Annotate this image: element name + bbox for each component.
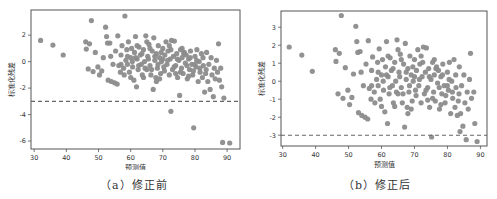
data-point — [139, 51, 144, 56]
data-point — [118, 62, 123, 67]
data-point — [366, 38, 371, 43]
x-tick-label: 80 — [191, 154, 199, 162]
y-tick-label: 0 — [22, 58, 26, 66]
data-point — [165, 58, 170, 63]
data-point — [393, 79, 398, 84]
data-point — [410, 64, 415, 69]
data-point — [381, 79, 386, 84]
data-point — [337, 51, 342, 56]
data-point — [464, 137, 469, 142]
y-tick-label: -6 — [20, 137, 26, 145]
data-point — [453, 72, 458, 77]
data-point — [368, 97, 373, 102]
data-point — [440, 62, 445, 67]
data-point — [412, 57, 417, 62]
data-point — [151, 87, 156, 92]
data-point — [204, 67, 209, 72]
data-point — [126, 39, 131, 44]
data-point — [151, 35, 156, 40]
data-point — [431, 89, 436, 94]
data-point — [384, 72, 389, 77]
data-point — [432, 57, 437, 62]
data-point — [191, 68, 196, 73]
y-tick-label: 2 — [22, 31, 26, 39]
chart-panel-b: 304050607080903210-1-2-3预测值标准化残差 （b）修正后 — [248, 0, 497, 199]
data-point — [379, 104, 384, 109]
data-point — [447, 77, 452, 82]
data-point — [404, 77, 409, 82]
data-point — [458, 111, 463, 116]
y-tick-label: -2 — [20, 84, 26, 92]
data-point — [103, 25, 108, 30]
y-tick-label: 3 — [272, 24, 276, 32]
data-point — [359, 70, 364, 75]
data-point — [175, 56, 180, 61]
data-point — [202, 90, 207, 95]
data-point — [340, 96, 345, 101]
data-point — [160, 56, 165, 61]
data-point — [119, 43, 124, 48]
data-point — [204, 50, 209, 55]
data-point — [84, 47, 89, 52]
data-point — [430, 96, 435, 101]
data-point — [159, 50, 164, 55]
data-point — [475, 139, 480, 144]
data-point — [461, 72, 466, 77]
y-tick-label: -3 — [270, 132, 276, 140]
data-point — [447, 60, 452, 65]
y-tick-label: -1 — [270, 96, 276, 104]
data-point — [456, 91, 461, 96]
data-point — [385, 121, 390, 126]
data-point — [118, 52, 123, 57]
data-point — [466, 107, 471, 112]
data-point — [382, 109, 387, 114]
data-point — [124, 47, 129, 52]
data-point — [188, 55, 193, 60]
data-point — [191, 125, 196, 130]
data-point — [333, 47, 338, 52]
data-point — [147, 46, 152, 51]
data-point — [127, 70, 132, 75]
data-point — [467, 77, 472, 82]
data-point — [372, 100, 377, 105]
data-point — [415, 47, 420, 52]
data-point — [354, 39, 359, 44]
chart-panel-a: 3040506070809020-2-4-6预测值标准化残差 （a）修正前 — [0, 0, 248, 199]
data-point — [374, 77, 379, 82]
data-point — [404, 70, 409, 75]
data-point — [380, 57, 385, 62]
data-point — [353, 24, 358, 29]
data-point — [445, 70, 450, 75]
x-tick-label: 50 — [94, 154, 102, 162]
data-point — [370, 54, 375, 59]
data-point — [437, 85, 442, 90]
x-tick-label: 90 — [476, 151, 484, 159]
data-point — [453, 85, 458, 90]
data-point — [61, 52, 66, 57]
data-point — [86, 66, 91, 71]
data-point — [99, 68, 104, 73]
data-point — [167, 72, 172, 77]
data-point — [299, 53, 304, 58]
caption-a: （a）修正前 — [100, 176, 168, 192]
data-point — [420, 60, 425, 65]
data-point — [432, 72, 437, 77]
data-point — [412, 74, 417, 79]
data-point — [427, 105, 432, 110]
data-point — [457, 64, 462, 69]
x-tick-label: 60 — [377, 151, 385, 159]
data-point — [172, 39, 177, 44]
data-point — [125, 54, 130, 59]
data-point — [457, 129, 462, 134]
y-tick-label: 1 — [272, 60, 276, 68]
data-point — [343, 65, 348, 70]
data-point — [440, 72, 445, 77]
data-point — [144, 39, 149, 44]
data-point — [115, 82, 120, 87]
data-point — [376, 70, 381, 75]
y-tick-label: -4 — [20, 111, 26, 119]
data-point — [113, 48, 118, 53]
x-tick-label: 40 — [62, 154, 70, 162]
data-point — [437, 107, 442, 112]
x-tick-label: 50 — [344, 151, 352, 159]
